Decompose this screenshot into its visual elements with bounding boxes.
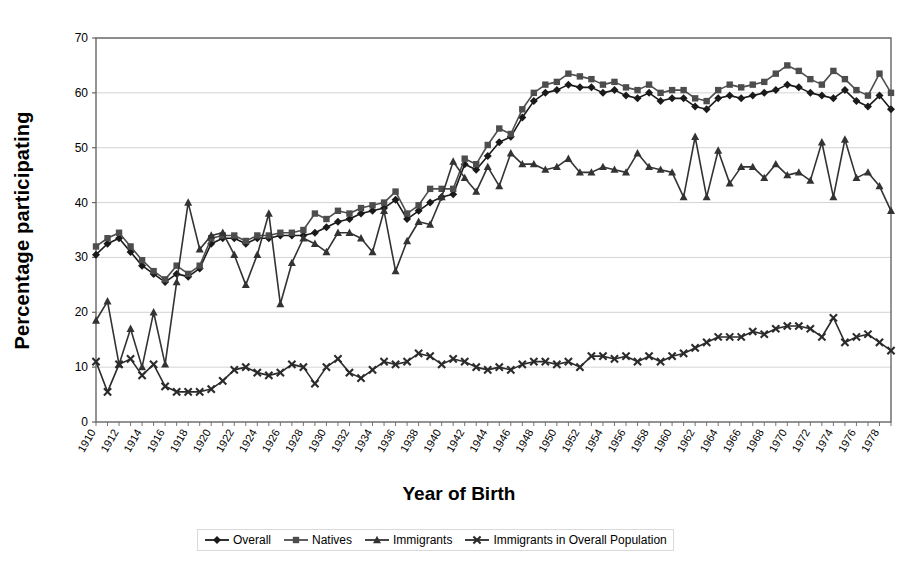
- data-point-marker: [139, 257, 145, 263]
- x-axis-tick-label: 1932: [329, 427, 352, 454]
- legend-item[interactable]: Immigrants: [364, 533, 452, 547]
- x-axis-tick-label: 1956: [605, 427, 628, 454]
- data-point-marker: [772, 160, 780, 167]
- data-point-marker: [623, 84, 629, 90]
- data-point-marker: [473, 161, 479, 167]
- data-point-marker: [322, 223, 330, 231]
- data-point-marker: [231, 232, 237, 238]
- data-point-marker: [300, 227, 306, 233]
- data-point-marker: [277, 230, 283, 236]
- data-point-marker: [289, 230, 295, 236]
- x-axis-tick-label: 1910: [75, 427, 98, 454]
- legend-label: Immigrants in Overall Population: [493, 533, 666, 547]
- x-axis-tick-label: 1914: [121, 427, 144, 454]
- cross-marker-icon: [464, 533, 490, 547]
- data-point-marker: [531, 90, 537, 96]
- data-point-marker: [806, 89, 814, 97]
- x-axis-tick-label: 1942: [444, 427, 467, 454]
- data-point-marker: [795, 168, 803, 175]
- data-point-marker: [864, 168, 872, 175]
- data-point-marker: [322, 248, 330, 255]
- data-point-marker: [127, 243, 133, 249]
- y-axis-tick-label: 30: [75, 250, 89, 264]
- x-axis-title: Year of Birth: [0, 483, 918, 505]
- data-point-marker: [173, 278, 181, 285]
- data-point-marker: [761, 79, 767, 85]
- data-point-marker: [795, 83, 803, 91]
- data-point-marker: [565, 70, 571, 76]
- diamond-marker-icon: [204, 533, 230, 547]
- data-point-marker: [334, 218, 342, 226]
- data-point-marker: [427, 186, 433, 192]
- legend-item[interactable]: Overall: [204, 533, 271, 547]
- data-point-marker: [564, 81, 572, 89]
- x-axis-tick-label: 1952: [559, 427, 582, 454]
- data-point-marker: [496, 125, 502, 131]
- x-axis-tick-label: 1936: [375, 427, 398, 454]
- data-point-marker: [669, 87, 675, 93]
- data-point-marker: [415, 218, 423, 225]
- data-point-marker: [737, 94, 745, 102]
- data-point-marker: [680, 193, 688, 200]
- data-point-marker: [806, 176, 814, 183]
- data-point-marker: [819, 81, 825, 87]
- x-axis-tick-label: 1918: [167, 427, 190, 454]
- x-axis-tick-label: 1960: [651, 427, 674, 454]
- data-point-marker: [842, 76, 848, 82]
- data-point-marker: [116, 230, 122, 236]
- x-axis-tick-label: 1954: [582, 427, 605, 454]
- data-point-marker: [253, 250, 261, 257]
- x-axis-tick-label: 1958: [628, 427, 651, 454]
- series-natives: [93, 62, 894, 282]
- data-point-marker: [196, 262, 202, 268]
- data-point-marker: [750, 81, 756, 87]
- data-point-marker: [646, 81, 652, 87]
- y-axis-tick-label: 50: [75, 141, 89, 155]
- legend-item[interactable]: Natives: [283, 533, 352, 547]
- data-point-marker: [507, 149, 515, 156]
- data-point-marker: [127, 355, 134, 362]
- data-point-marker: [564, 154, 572, 161]
- data-point-marker: [461, 155, 467, 161]
- legend-label: Overall: [233, 533, 271, 547]
- data-point-marker: [288, 259, 296, 266]
- x-axis-tick-label: 1966: [720, 427, 743, 454]
- data-point-marker: [691, 133, 699, 140]
- data-point-marker: [138, 363, 146, 370]
- data-point-marker: [392, 188, 398, 194]
- x-axis-tick-label: 1976: [836, 427, 859, 454]
- y-axis-tick-label: 70: [75, 31, 89, 45]
- data-point-marker: [599, 89, 607, 97]
- triangle-marker-icon: [364, 533, 390, 547]
- legend-label: Natives: [312, 533, 352, 547]
- data-point-marker: [807, 76, 813, 82]
- data-point-marker: [841, 135, 849, 142]
- x-axis-tick-label: 1970: [766, 427, 789, 454]
- data-point-marker: [508, 131, 514, 137]
- data-point-marker: [219, 377, 226, 384]
- data-point-marker: [357, 375, 364, 382]
- data-point-marker: [818, 138, 826, 145]
- data-point-marker: [381, 199, 387, 205]
- x-axis-tick-label: 1940: [421, 427, 444, 454]
- data-point-marker: [334, 355, 341, 362]
- x-axis-tick-label: 1916: [144, 427, 167, 454]
- legend-item[interactable]: Immigrants in Overall Population: [464, 533, 666, 547]
- data-point-marker: [587, 83, 595, 91]
- data-point-marker: [576, 83, 584, 91]
- data-point-marker: [773, 70, 779, 76]
- data-point-marker: [738, 84, 744, 90]
- data-point-marker: [243, 238, 249, 244]
- y-axis-tick-label: 40: [75, 196, 89, 210]
- data-point-marker: [830, 68, 836, 74]
- data-point-marker: [680, 87, 686, 93]
- data-point-marker: [853, 87, 859, 93]
- data-point-marker: [599, 163, 607, 170]
- x-axis-tick-label: 1968: [743, 427, 766, 454]
- x-axis-tick-label: 1912: [98, 427, 121, 454]
- chart-container: Percentage participating 010203040506070…: [0, 0, 918, 576]
- data-point-marker: [726, 81, 732, 87]
- series-line: [96, 85, 891, 282]
- data-point-marker: [829, 193, 837, 200]
- data-point-marker: [600, 81, 606, 87]
